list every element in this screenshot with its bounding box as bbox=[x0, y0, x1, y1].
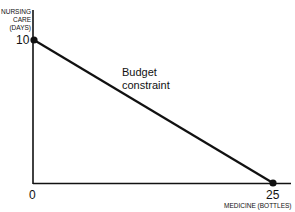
chart-canvas bbox=[0, 0, 295, 212]
budget-constraint-line bbox=[34, 40, 273, 183]
budget-constraint-annotation: Budget constraint bbox=[122, 66, 170, 92]
intercept-marker-x bbox=[269, 179, 276, 186]
y-axis-label: NURSING CARE (DAYS) bbox=[0, 8, 31, 32]
y-axis-label-line: (DAYS) bbox=[0, 24, 31, 32]
y-tick-10: 10 bbox=[16, 33, 29, 47]
annotation-line: constraint bbox=[122, 79, 170, 92]
y-axis-label-line: NURSING bbox=[0, 8, 31, 16]
x-axis-label: MEDICINE (BOTTLES) bbox=[224, 202, 292, 209]
annotation-line: Budget bbox=[122, 66, 170, 79]
intercept-marker-y bbox=[30, 36, 37, 43]
x-tick-25: 25 bbox=[266, 188, 279, 202]
y-axis-label-line: CARE bbox=[0, 16, 31, 24]
x-tick-0: 0 bbox=[29, 188, 36, 202]
